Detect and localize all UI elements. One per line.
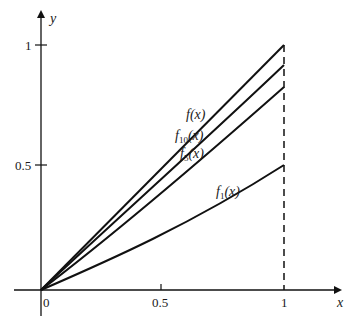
x-tick-label-half: 0.5: [152, 295, 168, 310]
curve-f1: [41, 165, 284, 290]
x-tick-label-one: 1: [281, 295, 288, 310]
label-f: f(x): [186, 107, 206, 123]
label-f1: f1(x): [216, 184, 240, 201]
y-axis-label: y: [48, 11, 57, 26]
label-f10: f10(x): [175, 128, 204, 145]
y-tick-label-one: 1: [25, 38, 32, 53]
y-tick-label-half: 0.5: [15, 158, 31, 173]
label-f5: f5(x): [180, 146, 204, 163]
curve-f: [41, 45, 284, 290]
chart: y x 0 0.5 1 1 0.5 f(x) f10(x) f5(x) f1(x…: [0, 0, 351, 325]
curve-f10: [41, 65, 284, 290]
x-axis-label: x: [336, 295, 344, 310]
origin-label: 0: [43, 295, 50, 310]
